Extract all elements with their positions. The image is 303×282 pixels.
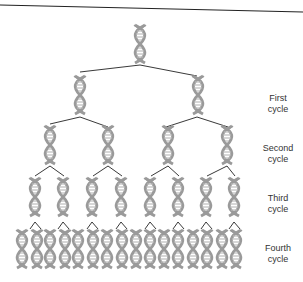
label-third-cycle: Third cycle [256,193,300,215]
dna-helix-icon [230,230,242,268]
dna-helix-icon [44,126,56,164]
dna-helix-icon [162,126,174,164]
dna-helix-icon [86,178,98,216]
dna-helix-icon [44,230,56,268]
dna-helix-icon [187,230,199,268]
dna-helix-icon [221,126,233,164]
dna-helix-icon [72,230,84,268]
dna-helix-icon [134,25,146,63]
dna-helix-icon [31,230,43,268]
dna-helix-icon [16,230,28,268]
dna-helix-icon [101,230,113,268]
dna-helix-icon [200,178,212,216]
dna-helix-icon [144,230,156,268]
dna-helix-icon [172,230,184,268]
top-rule [0,5,303,12]
dna-helix-icon [74,76,86,114]
dna-helix-icon [87,230,99,268]
label-fourth-cycle: Fourth cycle [256,243,300,265]
dna-helix-icon [172,178,184,216]
dna-helix-icon [57,178,69,216]
dna-helix-icon [201,230,213,268]
dna-helix-icon [216,230,228,268]
dna-helix-icon [130,230,142,268]
dna-helix-icon [29,178,41,216]
dna-helix-icon [158,230,170,268]
dna-helix-icon [192,76,204,114]
label-second-cycle: Second cycle [256,143,300,165]
dna-helix-icon [116,230,128,268]
dna-helix-icon [115,178,127,216]
pcr-replication-diagram [0,0,303,282]
dna-helix-icon [144,178,156,216]
dna-helix-icon [59,230,71,268]
helix-layer [16,25,242,268]
label-first-cycle: First cycle [256,93,300,115]
dna-helix-icon [102,126,114,164]
dna-helix-icon [228,178,240,216]
